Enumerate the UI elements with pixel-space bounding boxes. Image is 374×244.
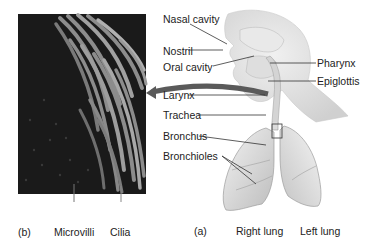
label-pharynx: Pharynx: [317, 57, 356, 69]
label-bronchus: Bronchus: [163, 130, 207, 142]
label-cilia: Cilia: [110, 226, 130, 238]
trachea-tube: [272, 122, 278, 130]
label-microvilli: Microvilli: [54, 226, 94, 238]
label-larynx: Larynx: [163, 89, 195, 101]
label-right-lung: Right lung: [236, 225, 283, 237]
label-epiglottis: Epiglottis: [317, 75, 360, 87]
lungs-illustration: [223, 124, 321, 210]
micrograph-cilia-image: [18, 14, 146, 202]
panel-b-tag: (b): [18, 226, 31, 238]
label-left-lung: Left lung: [300, 225, 340, 237]
label-nasal-cavity: Nasal cavity: [163, 13, 220, 25]
label-bronchioles: Bronchioles: [163, 150, 218, 162]
label-nostril: Nostril: [163, 45, 193, 57]
label-trachea: Trachea: [163, 109, 201, 121]
diagram-artwork: [0, 0, 374, 244]
label-oral-cavity: Oral cavity: [163, 61, 213, 73]
panel-a-tag: (a): [194, 225, 207, 237]
